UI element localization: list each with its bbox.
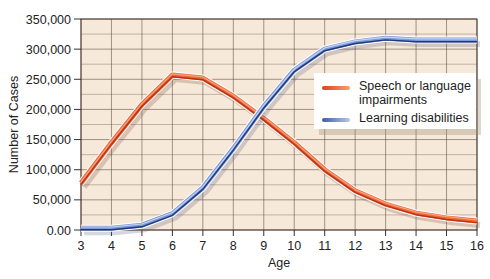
x-tick-label: 13 <box>379 239 393 253</box>
legend-label: Learning disabilities <box>359 111 471 125</box>
x-tick-label: 8 <box>230 239 237 253</box>
x-tick-label: 11 <box>318 239 331 253</box>
x-tick-label: 6 <box>169 239 176 253</box>
y-tick-label: 350,000 <box>26 13 71 27</box>
x-tick-label: 4 <box>108 239 115 253</box>
x-tick-label: 12 <box>348 239 362 253</box>
legend-item-learning: Learning disabilities <box>314 111 471 125</box>
x-tick-label: 10 <box>287 239 301 253</box>
x-tick-label: 15 <box>440 239 454 253</box>
y-tick-label: 150,000 <box>26 133 71 147</box>
legend-item-speech: Speech or language impairments <box>314 79 471 107</box>
x-tick-label: 7 <box>199 239 206 253</box>
x-tick-label: 9 <box>260 239 267 253</box>
y-tick-label: 100,000 <box>26 163 71 177</box>
legend-label-line1: Learning disabilities <box>359 111 471 125</box>
y-axis-label: Number of Cases <box>7 76 21 173</box>
learning-swatch-icon <box>322 118 350 122</box>
y-tick-label: 50,000 <box>33 193 71 207</box>
x-axis-label: Age <box>268 256 290 270</box>
legend: Speech or language impairments Learning … <box>314 73 476 129</box>
y-tick-label: 200,000 <box>26 103 71 117</box>
speech-swatch-icon <box>322 86 350 90</box>
x-tick-label: 3 <box>78 239 85 253</box>
y-tick-label: 250,000 <box>26 73 71 87</box>
x-tick-label: 16 <box>470 239 484 253</box>
x-tick-label: 14 <box>409 239 423 253</box>
x-axis-ticks: 345678910111213141516 <box>78 230 484 253</box>
legend-label-line2: impairments <box>359 93 471 107</box>
y-axis-ticks: 0.0050,000100,000150,000200,000250,00030… <box>26 13 81 238</box>
legend-label-line1: Speech or language <box>359 79 471 93</box>
y-tick-label: 0.00 <box>47 224 71 238</box>
y-tick-label: 300,000 <box>26 43 71 57</box>
legend-label: Speech or language impairments <box>359 79 471 107</box>
x-tick-label: 5 <box>138 239 145 253</box>
chart: 0.0050,000100,000150,000200,000250,00030… <box>0 0 490 279</box>
line-chart: 0.0050,000100,000150,000200,000250,00030… <box>0 0 490 279</box>
